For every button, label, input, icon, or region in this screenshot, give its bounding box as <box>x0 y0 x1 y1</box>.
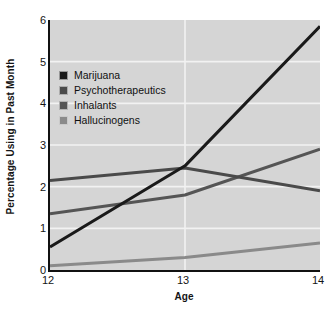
legend-swatch-icon <box>59 86 68 95</box>
legend-item: Inhalants <box>59 99 166 112</box>
y-axis-tick-label: 6 <box>28 14 46 26</box>
line-chart-figure: Percentage Using in Past Month 0123456 1… <box>0 0 333 315</box>
legend-item-label: Hallucinogens <box>74 115 140 126</box>
legend-item: Marijuana <box>59 69 166 82</box>
legend-item: Hallucinogens <box>59 114 166 127</box>
y-axis-tick-label: 2 <box>28 181 46 193</box>
chart-legend: MarijuanaPsychotherapeuticsInhalantsHall… <box>59 69 166 127</box>
legend-item: Psychotherapeutics <box>59 84 166 97</box>
plot-area <box>48 20 320 272</box>
legend-swatch-icon <box>59 116 68 125</box>
gridlines <box>50 20 320 270</box>
y-axis-tick-label: 1 <box>28 222 46 234</box>
x-axis-tick-labels: 121314 <box>48 274 322 290</box>
legend-swatch-icon <box>59 71 68 80</box>
legend-item-label: Marijuana <box>74 70 120 81</box>
x-axis-tick-label: 13 <box>177 274 189 286</box>
y-axis-title-container: Percentage Using in Past Month <box>0 0 22 272</box>
legend-swatch-icon <box>59 101 68 110</box>
y-axis-tick-label: 4 <box>28 97 46 109</box>
y-axis-tick-label: 3 <box>28 139 46 151</box>
y-axis-tick-labels: 0123456 <box>22 0 46 315</box>
x-axis-title: Age <box>48 291 320 302</box>
x-axis-tick-label: 12 <box>42 274 54 286</box>
plot-svg <box>50 20 320 270</box>
legend-item-label: Inhalants <box>74 100 117 111</box>
y-axis-tick-label: 5 <box>28 56 46 68</box>
x-axis-tick-label: 14 <box>312 274 324 286</box>
legend-item-label: Psychotherapeutics <box>74 85 166 96</box>
y-axis-title: Percentage Using in Past Month <box>6 58 17 214</box>
